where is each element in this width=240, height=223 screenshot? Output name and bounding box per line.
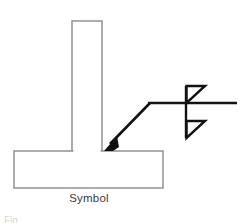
- fillet-triangle-lower-icon: [187, 121, 206, 138]
- fillet-triangle-upper-icon: [187, 86, 206, 103]
- welding-symbol-figure: Symbol Fig: [0, 0, 240, 223]
- leader-arrowhead-icon: [104, 136, 119, 151]
- vertical-member-shape: [72, 21, 102, 152]
- figure-caption: Symbol: [0, 192, 178, 204]
- joint-merge-mask: [74, 149, 101, 153]
- cutoff-bottom-text: Fig: [4, 215, 236, 223]
- welding-symbol-drawing: [0, 0, 240, 223]
- base-plate-shape: [14, 151, 163, 188]
